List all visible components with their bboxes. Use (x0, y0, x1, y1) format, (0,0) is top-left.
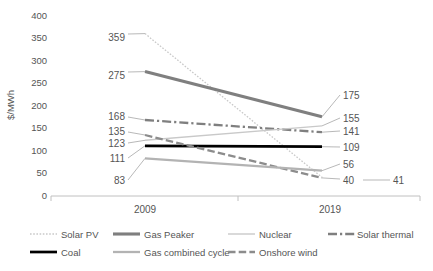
right-value-labels: 175 155 141 109 56 40 41 (343, 90, 405, 186)
leader-155 (322, 118, 340, 126)
y-tick-50: 50 (36, 167, 47, 178)
value-label-solar-thermal-2009: 168 (108, 111, 125, 122)
series-lines (145, 34, 322, 178)
value-label-nuclear-2009: 123 (108, 138, 125, 149)
legend-item-solar-thermal[interactable]: Solar thermal (328, 229, 414, 240)
legend-label-nuclear: Nuclear (259, 229, 292, 240)
left-value-labels: 359 275 168 135 123 111 83 (108, 32, 125, 186)
leader-83 (128, 158, 145, 180)
legend-label-gas-peaker: Gas Peaker (144, 229, 194, 240)
value-label-solar-pv-2019: 41 (393, 175, 405, 186)
leader-175 (322, 95, 340, 117)
legend-label-gas-combined-cycle: Gas combined cycle (144, 247, 230, 258)
series-line-coal (145, 146, 322, 147)
value-label-gas-combined-cycle-2019: 56 (343, 159, 355, 170)
x-axis-tick-labels: 2009 2019 (134, 204, 342, 215)
legend-label-coal: Coal (61, 247, 81, 258)
y-axis-tick-labels: 400 350 300 250 200 150 100 50 0 (31, 10, 47, 201)
legend-label-solar-pv: Solar PV (61, 229, 99, 240)
series-line-gas-peaker (145, 72, 322, 117)
legend-item-gas-combined-cycle[interactable]: Gas combined cycle (113, 247, 230, 258)
leader-135 (128, 132, 145, 135)
x-tick-2019: 2019 (319, 204, 342, 215)
y-tick-400: 400 (31, 10, 47, 21)
x-axis (51, 196, 420, 201)
leader-40 (322, 178, 340, 179)
y-axis-title-text: $/MWh (5, 90, 16, 120)
legend-item-gas-peaker[interactable]: Gas Peaker (113, 229, 194, 240)
x-tick-2009: 2009 (134, 204, 157, 215)
leader-168 (128, 117, 145, 120)
series-line-nuclear (145, 126, 322, 140)
leader-56 (322, 164, 340, 171)
value-label-nuclear-2019: 155 (343, 113, 360, 124)
y-tick-100: 100 (31, 145, 47, 156)
value-label-gas-peaker-2019: 175 (343, 90, 360, 101)
legend-item-solar-pv[interactable]: Solar PV (30, 229, 99, 240)
chart-container: $/MWh 400 350 300 250 200 150 100 50 0 2… (0, 0, 433, 271)
legend-label-solar-thermal: Solar thermal (357, 229, 414, 240)
value-label-solar-thermal-2019: 141 (343, 126, 360, 137)
value-label-gas-peaker-2009: 275 (108, 70, 125, 81)
series-line-solar-thermal (145, 120, 322, 132)
legend: Solar PV Gas Peaker Nuclear Solar therma… (30, 229, 414, 258)
series-line-gas-combined-cycle (145, 158, 322, 170)
value-label-coal-2009: 111 (110, 153, 126, 164)
y-tick-300: 300 (31, 55, 47, 66)
y-axis-title: $/MWh (5, 90, 16, 120)
right-label-leaders (322, 95, 390, 180)
series-line-onshore-wind (145, 135, 322, 178)
value-label-onshore-wind-2009: 135 (108, 126, 125, 137)
legend-item-coal[interactable]: Coal (30, 247, 81, 258)
value-label-gas-combined-cycle-2009: 83 (114, 175, 126, 186)
leader-111 (128, 146, 145, 158)
value-label-solar-pv-2009: 359 (108, 32, 125, 43)
legend-item-onshore-wind[interactable]: Onshore wind (228, 247, 318, 258)
leader-123 (128, 140, 145, 143)
y-tick-0: 0 (42, 190, 47, 201)
leader-141 (322, 131, 340, 132)
y-tick-250: 250 (31, 77, 47, 88)
y-tick-350: 350 (31, 32, 47, 43)
value-label-coal-2019: 109 (343, 142, 360, 153)
y-tick-150: 150 (31, 122, 47, 133)
legend-label-onshore-wind: Onshore wind (259, 247, 318, 258)
value-label-onshore-wind-2019: 40 (343, 175, 355, 186)
y-tick-200: 200 (31, 100, 47, 111)
left-label-leaders (128, 34, 145, 180)
legend-item-nuclear[interactable]: Nuclear (228, 229, 292, 240)
